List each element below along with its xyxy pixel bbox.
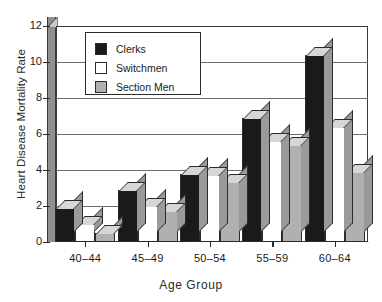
legend-label-clerks: Clerks (116, 43, 146, 55)
x-tick-mark (148, 242, 149, 247)
y-tick-label: 2 (2, 199, 42, 211)
legend: Clerks Switchmen Section Men (85, 32, 201, 95)
bar-clerks[interactable] (55, 208, 75, 242)
bar-side-face (324, 38, 333, 232)
x-tick-mark (210, 242, 211, 247)
x-tick-label: 45–49 (113, 252, 183, 264)
legend-item-switchmen[interactable]: Switchmen (95, 58, 200, 77)
legend-swatch-clerks (95, 43, 107, 55)
y-tick-mark (43, 206, 50, 207)
legend-item-clerks[interactable]: Clerks (95, 39, 200, 58)
x-tick-label: 60–64 (300, 252, 370, 264)
bar-chart: Heart Disease Mortality Rate Age Group 0… (0, 0, 382, 302)
x-tick-label: 40–44 (50, 252, 120, 264)
y-tick-mark (43, 62, 50, 63)
y-tick-label: 0 (2, 235, 42, 247)
legend-swatch-section-men (95, 81, 107, 93)
x-tick-mark (85, 242, 86, 247)
bar-side-face (261, 101, 270, 232)
x-axis-title: Age Group (0, 278, 382, 292)
bar-clerks[interactable] (118, 190, 138, 242)
y-tick-mark (43, 170, 50, 171)
bar-side-face (281, 124, 290, 232)
y-tick-label: 12 (2, 19, 42, 31)
plot-top-rule (56, 26, 368, 27)
legend-item-section-men[interactable]: Section Men (95, 77, 200, 96)
bar-side-face (344, 110, 353, 232)
y-tick-mark (43, 242, 50, 243)
y-tick-label: 4 (2, 163, 42, 175)
legend-label-switchmen: Switchmen (116, 62, 167, 74)
x-tick-label: 50–54 (175, 252, 245, 264)
y-tick-label: 6 (2, 127, 42, 139)
x-tick-label: 55–59 (237, 252, 307, 264)
y-tick-mark (43, 98, 50, 99)
x-tick-mark (335, 242, 336, 247)
y-tick-mark (43, 134, 50, 135)
legend-label-section-men: Section Men (116, 81, 174, 93)
x-tick-mark (272, 242, 273, 247)
y-tick-label: 8 (2, 91, 42, 103)
bar-section-men[interactable] (95, 233, 115, 242)
legend-swatch-switchmen (95, 62, 107, 74)
y-tick-mark (43, 26, 50, 27)
y-tick-label: 10 (2, 55, 42, 67)
